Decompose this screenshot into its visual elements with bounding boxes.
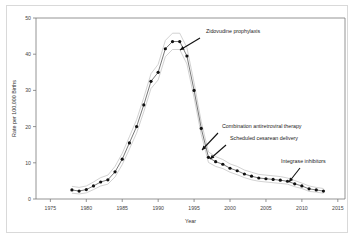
annotation-label: Combination antiretroviral therapy [222, 123, 302, 129]
rate-per-births-line-chart: 01020304050 Rate per 100,000 Births 1975… [0, 0, 356, 247]
data-point [142, 103, 145, 106]
x-tick-label: 2015 [332, 205, 344, 211]
y-tick-label: 50 [25, 15, 31, 21]
annotations-group: Zidovudine prophylaxisCombination antire… [180, 28, 326, 182]
annotation-zidovudine-prophylaxis: Zidovudine prophylaxis [180, 28, 261, 50]
data-point [228, 167, 231, 170]
y-tick-label: 10 [25, 160, 31, 166]
data-point [192, 89, 195, 92]
x-tick-label: 2010 [296, 205, 308, 211]
data-point [128, 141, 131, 144]
data-point [164, 47, 167, 50]
data-series-group [70, 33, 325, 194]
data-point [70, 188, 73, 191]
data-point [121, 158, 124, 161]
data-point [113, 170, 116, 173]
annotation-label: Integrase inhibitors [281, 158, 326, 164]
x-tick-label: 2005 [260, 205, 272, 211]
data-point [272, 178, 275, 181]
annotation-scheduled-cesarean-delivery: Scheduled cesarean delivery [210, 135, 298, 159]
data-point [106, 178, 109, 181]
data-point [221, 163, 224, 166]
data-point [264, 177, 267, 180]
data-point [200, 127, 203, 130]
data-point [85, 188, 88, 191]
data-point [149, 80, 152, 83]
data-point [279, 179, 282, 182]
lower-confidence-band [72, 49, 324, 193]
data-point [243, 172, 246, 175]
y-axis: 01020304050 Rate per 100,000 Births [11, 15, 36, 202]
data-point [293, 182, 296, 185]
data-point [171, 40, 174, 43]
x-tick-label: 1975 [45, 205, 57, 211]
y-tick-label: 40 [25, 51, 31, 57]
data-point [257, 176, 260, 179]
x-tick-label: 1980 [81, 205, 93, 211]
chart-container: 01020304050 Rate per 100,000 Births 1975… [0, 0, 356, 247]
data-point [99, 180, 102, 183]
data-point [286, 180, 289, 183]
y-tick-label: 0 [28, 196, 31, 202]
x-tick-label: 1985 [116, 205, 128, 211]
data-point [157, 71, 160, 74]
x-axis-ticks: 197519801985199019952000200520102015 [45, 199, 344, 211]
data-point [300, 184, 303, 187]
x-axis-title: Year [185, 218, 196, 224]
annotation-label: Scheduled cesarean delivery [230, 135, 298, 141]
data-point [307, 187, 310, 190]
y-axis-title: Rate per 100,000 Births [11, 80, 17, 137]
y-axis-ticks: 01020304050 [25, 15, 36, 202]
data-point [178, 40, 181, 43]
data-point [214, 160, 217, 163]
annotation-label: Zidovudine prophylaxis [206, 28, 261, 34]
x-tick-label: 1990 [152, 205, 164, 211]
data-point [322, 189, 325, 192]
data-point [92, 184, 95, 187]
y-tick-label: 30 [25, 87, 31, 93]
x-axis: 197519801985199019952000200520102015 Yea… [36, 199, 345, 224]
data-point [250, 175, 253, 178]
y-tick-label: 20 [25, 124, 31, 130]
data-point [135, 125, 138, 128]
x-tick-label: 1995 [188, 205, 200, 211]
data-point [207, 156, 210, 159]
data-point [185, 54, 188, 57]
x-tick-label: 2000 [224, 205, 236, 211]
data-point [78, 189, 81, 192]
data-point [315, 188, 318, 191]
data-point [236, 169, 239, 172]
